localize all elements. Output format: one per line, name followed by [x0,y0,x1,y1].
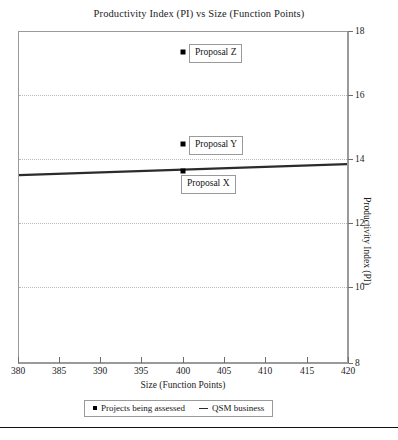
y-axis-line [348,31,349,363]
x-axis-title: Size (Function Points) [0,380,366,390]
y-tick-16 [348,95,353,96]
productivity-index-chart: Productivity Index (PI) vs Size (Functio… [0,0,398,440]
chart-legend: Projects being assessed QSM business [84,400,273,417]
x-tick-410 [265,357,266,363]
x-tick-415 [307,357,308,363]
y-tick-label-16: 16 [355,90,365,100]
legend-label-projects-being-assessed: Projects being assessed [101,403,185,413]
label-proposal-x: Proposal X [181,175,236,194]
x-axis-line [18,363,349,364]
y-tick-label-8: 8 [355,358,360,368]
plot-area: Proposal Z Proposal Y Proposal X [18,31,348,363]
x-tick-400 [183,357,184,363]
x-tick-420 [348,357,349,363]
legend-entry-qsm-business[interactable]: QSM business [199,403,264,413]
label-proposal-y: Proposal Y [189,136,243,155]
x-tick-label-410: 410 [258,366,272,376]
x-tick-405 [224,357,225,363]
label-proposal-z: Proposal Z [189,44,242,63]
data-point-proposal-x[interactable] [181,169,186,174]
y-tick-label-14: 14 [355,154,365,164]
data-point-proposal-z[interactable] [181,50,186,55]
bottom-divider [0,427,398,428]
data-point-proposal-y[interactable] [181,142,186,147]
x-tick-label-415: 415 [300,366,314,376]
x-tick-label-400: 400 [176,366,190,376]
y-tick-10 [348,287,353,288]
x-tick-label-395: 395 [134,366,148,376]
x-tick-380 [18,357,19,363]
y-tick-14 [348,159,353,160]
x-tick-label-405: 405 [217,366,231,376]
y-tick-label-18: 18 [355,26,365,36]
qsm-business-trend-line [19,32,347,362]
legend-entry-projects-being-assessed[interactable]: Projects being assessed [93,403,185,413]
x-tick-label-390: 390 [93,366,107,376]
y-tick-18 [348,31,353,32]
x-tick-395 [141,357,142,363]
x-tick-385 [59,357,60,363]
y-tick-12 [348,223,353,224]
x-tick-label-385: 385 [52,366,66,376]
x-tick-label-380: 380 [11,366,25,376]
legend-label-qsm-business: QSM business [212,403,264,413]
y-axis-title: Productivity Index (PI) [362,197,372,285]
x-tick-label-420: 420 [341,366,355,376]
x-tick-390 [100,357,101,363]
chart-title: Productivity Index (PI) vs Size (Functio… [0,8,398,19]
square-marker-icon [93,406,97,410]
line-marker-icon [199,408,208,409]
